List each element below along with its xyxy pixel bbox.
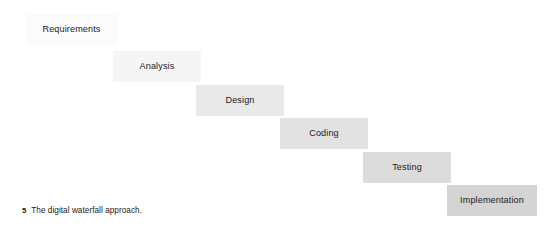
waterfall-stage-box: Design	[196, 85, 284, 116]
figure-caption-number: 5	[22, 207, 26, 215]
waterfall-figure: RequirementsAnalysisDesignCodingTestingI…	[0, 0, 557, 239]
waterfall-stage-box: Testing	[363, 152, 451, 183]
figure-caption-text: The digital waterfall approach.	[31, 207, 142, 215]
waterfall-stage-label: Testing	[392, 163, 422, 172]
waterfall-stage-box: Analysis	[113, 51, 201, 82]
waterfall-stage-box: Coding	[280, 118, 368, 149]
waterfall-stage-box: Implementation	[447, 185, 537, 216]
waterfall-stage-list: RequirementsAnalysisDesignCodingTestingI…	[0, 0, 557, 239]
waterfall-stage-box: Requirements	[26, 14, 117, 45]
waterfall-stage-label: Analysis	[140, 62, 175, 71]
waterfall-stage-label: Requirements	[42, 25, 100, 34]
waterfall-stage-label: Design	[225, 96, 254, 105]
waterfall-stage-label: Implementation	[460, 196, 524, 205]
waterfall-stage-label: Coding	[309, 129, 339, 138]
figure-caption: 5 The digital waterfall approach.	[22, 207, 142, 215]
